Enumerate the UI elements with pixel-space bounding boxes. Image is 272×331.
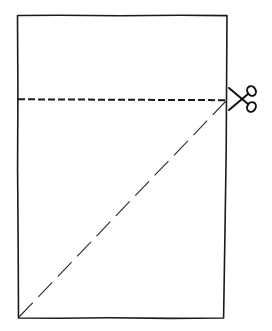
scissors-icon xyxy=(229,85,258,114)
paper-diagram xyxy=(0,0,272,331)
cut-line xyxy=(18,99,226,100)
fold-line xyxy=(19,101,226,317)
diagram-canvas: Rectangular sheet with a dashed horizont… xyxy=(0,0,272,331)
paper-sheet-outline xyxy=(18,15,228,318)
